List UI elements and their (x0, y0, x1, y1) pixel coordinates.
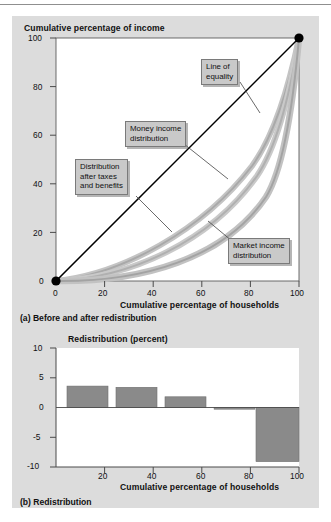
panel-a-x-tick-60: 60 (196, 288, 205, 298)
callout-line-of-equality-text: Line of equality (206, 62, 233, 81)
top-rule-divider (0, 4, 331, 5)
bar-redistribution-3 (165, 397, 206, 408)
figure-page: Cumulative percentage of income (0, 0, 331, 522)
panel-a-y-tick-20: 20 (33, 228, 42, 238)
panel-b-x-axis-title: Cumulative percentage of households (120, 482, 279, 492)
callout-market-income: Market income distribution (228, 238, 290, 264)
panel-a-y-tick-0: 0 (39, 276, 44, 286)
panel-a-x-tick-80: 80 (244, 288, 253, 298)
callout-line-of-equality: Line of equality (201, 59, 238, 85)
panel-a-x-tick-40: 40 (147, 288, 156, 298)
panel-a-y-tick-80: 80 (33, 82, 42, 92)
panel-b-x-tick-100: 100 (290, 471, 304, 481)
panel-a-svg (12, 16, 319, 316)
panel-b-x-tick-80: 80 (244, 471, 253, 481)
callout-money-income: Money income distribution (125, 121, 186, 147)
panel-a-x-tick-20: 20 (98, 288, 107, 298)
panel-b-y-tick-neg10: -10 (27, 461, 39, 471)
equality-endpoint-top (294, 33, 303, 42)
panel-b-caption: (b) Redistribution (20, 497, 92, 507)
panel-b-x-tick-40: 40 (147, 471, 156, 481)
callout-money-income-text: Money income distribution (130, 124, 181, 143)
bar-redistribution-5 (256, 408, 299, 462)
bar-redistribution-2 (116, 387, 157, 407)
panel-a-y-tick-100: 100 (28, 33, 42, 43)
panel-a-y-tick-40: 40 (33, 179, 42, 189)
callout-after-taxes-text: Distribution after taxes and benefits (80, 162, 123, 190)
panel-b-y-tick-5: 5 (39, 372, 44, 382)
panel-a-x-tick-0: 0 (53, 288, 58, 298)
panel-a-x-axis-title: Cumulative percentage of households (120, 300, 279, 310)
panel-b-y-tick-10: 10 (33, 343, 42, 353)
panel-a-y-tick-60: 60 (33, 130, 42, 140)
equality-endpoint-origin (51, 276, 60, 285)
panel-b-x-tick-60: 60 (196, 471, 205, 481)
bar-redistribution-1 (67, 386, 108, 407)
panel-a-caption: (a) Before and after redistribution (20, 313, 157, 323)
panel-a-x-tick-100: 100 (290, 288, 304, 298)
panel-b-y-tick-0: 0 (39, 402, 44, 412)
figure-panel: Cumulative percentage of income (12, 16, 319, 508)
panel-b-x-tick-20: 20 (98, 471, 107, 481)
callout-after-taxes: Distribution after taxes and benefits (75, 159, 128, 195)
panel-b-y-tick-neg5: -5 (33, 432, 40, 442)
callout-market-income-text: Market income distribution (233, 241, 285, 260)
